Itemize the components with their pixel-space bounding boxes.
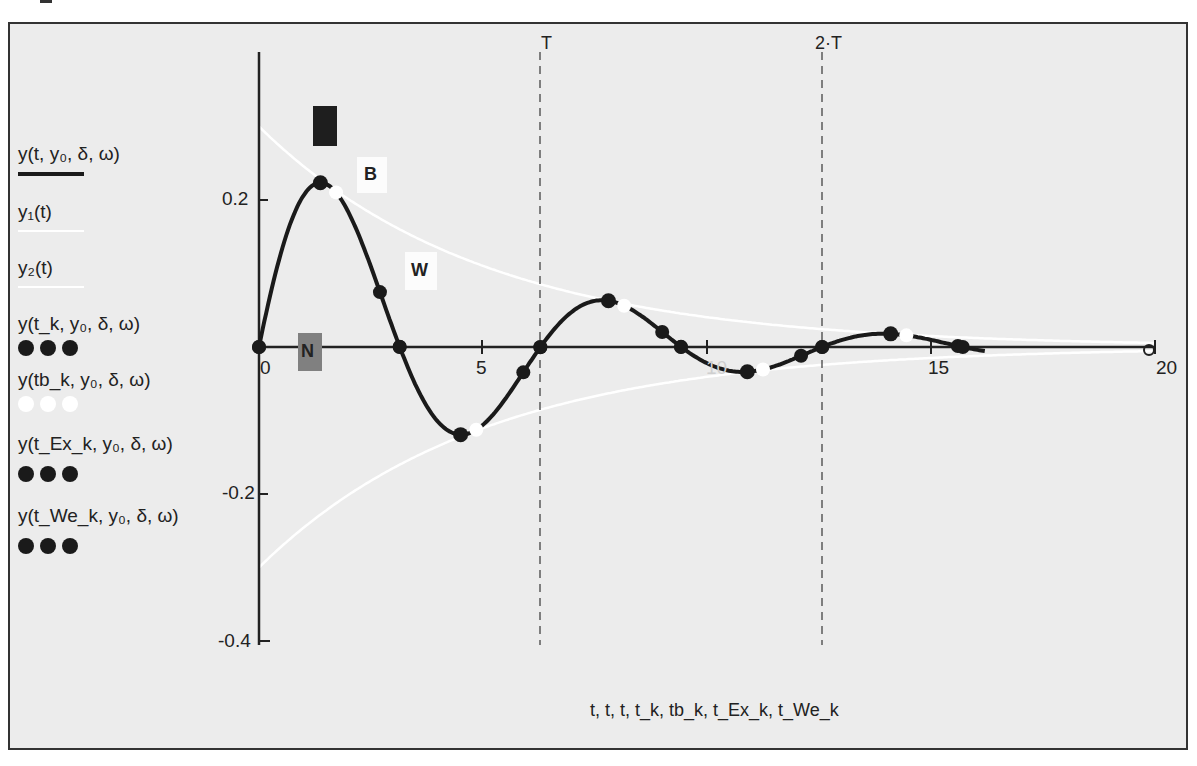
data-point: [373, 285, 387, 299]
data-points: [252, 175, 970, 442]
data-point: [393, 340, 407, 354]
legend-swatch-black-line: [18, 172, 84, 176]
data-point: [329, 185, 343, 199]
legend-label: y₁(t): [18, 198, 228, 226]
marker-T-label: T: [541, 33, 552, 54]
legend-item-main-curve: y(t, y₀, δ, ω): [18, 140, 228, 198]
annotation-W: W: [411, 260, 428, 281]
legend-swatch-white-dots: [18, 396, 228, 412]
data-point: [453, 427, 468, 442]
data-point: [469, 423, 483, 437]
legend-item-twe: y(t_We_k, y₀, δ, ω): [18, 502, 228, 574]
x-tick-label-10: 10: [706, 357, 727, 379]
data-point: [533, 340, 547, 354]
data-point: [815, 340, 829, 354]
marker-2T-label: 2·T: [815, 33, 842, 54]
legend-item-tk: y(t_k, y₀, δ, ω): [18, 310, 228, 366]
x-tick-label-0: 0: [260, 357, 271, 379]
legend-label: y(t_Ex_k, y₀, δ, ω): [18, 430, 228, 458]
x-tick-label-5: 5: [476, 357, 487, 379]
envelope-upper-line: [259, 127, 1155, 344]
legend-swatch-white-line: [18, 286, 84, 288]
data-point: [601, 293, 616, 308]
annotation-black-box: [313, 106, 337, 146]
legend-item-y1: y₁(t): [18, 198, 228, 254]
annotation-B: B: [364, 164, 377, 185]
x-tick-label-15: 15: [928, 357, 949, 379]
legend-label: y(t_We_k, y₀, δ, ω): [18, 502, 228, 530]
y-tick-label-neg0.4: -0.4: [218, 630, 251, 652]
legend-swatch-black-dots: [18, 340, 228, 356]
legend: y(t, y₀, δ, ω) y₁(t) y₂(t) y(t_k, y₀, δ,…: [18, 140, 228, 574]
data-point: [756, 362, 770, 376]
envelope-lower-line: [259, 351, 1155, 568]
legend-swatch-black-dots: [18, 538, 228, 554]
data-point: [794, 349, 808, 363]
legend-item-y2: y₂(t): [18, 254, 228, 310]
data-point: [313, 175, 328, 190]
legend-label: y(tb_k, y₀, δ, ω): [18, 366, 228, 394]
legend-label: y₂(t): [18, 254, 228, 282]
data-point: [956, 340, 970, 354]
data-point: [655, 325, 669, 339]
data-point: [883, 326, 898, 341]
data-point: [516, 365, 530, 379]
data-point: [899, 328, 913, 342]
legend-label: y(t, y₀, δ, ω): [18, 140, 228, 168]
data-point: [740, 364, 755, 379]
data-point: [252, 340, 266, 354]
data-point: [674, 340, 688, 354]
x-tick-label-20: 20: [1156, 357, 1177, 379]
legend-label: y(t_k, y₀, δ, ω): [18, 310, 228, 338]
legend-swatch-black-dots: [18, 466, 228, 482]
data-point: [617, 299, 631, 313]
annotation-N: N: [301, 341, 314, 362]
legend-item-tex: y(t_Ex_k, y₀, δ, ω): [18, 430, 228, 502]
legend-swatch-white-line: [18, 230, 84, 232]
legend-item-tbk: y(tb_k, y₀, δ, ω): [18, 366, 228, 430]
x-axis-label: t, t, t, t_k, tb_k, t_Ex_k, t_We_k: [590, 700, 839, 721]
